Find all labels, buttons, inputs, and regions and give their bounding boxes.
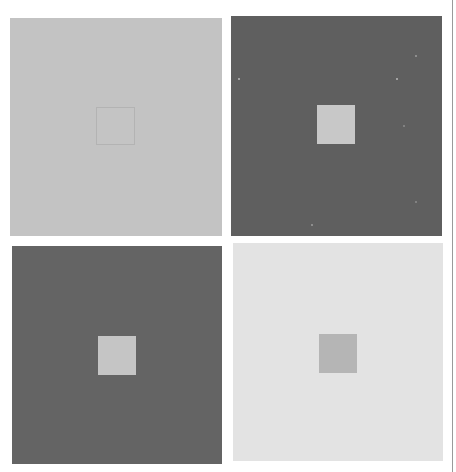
noise-speck [396, 78, 398, 80]
center-square-bottom-right [319, 334, 357, 373]
noise-speck [238, 78, 240, 80]
noise-speck [311, 224, 313, 226]
noise-speck [415, 55, 417, 57]
noise-speck [403, 125, 405, 127]
panel-bottom-left [12, 246, 222, 464]
center-square-bottom-left [98, 336, 136, 375]
center-square-top-right [317, 105, 355, 144]
page-edge-line [452, 0, 453, 472]
panel-top-left [10, 18, 222, 236]
panel-top-right [231, 16, 442, 236]
noise-speck [415, 201, 417, 203]
center-square-top-left [96, 107, 135, 145]
panel-bottom-right [233, 243, 443, 461]
